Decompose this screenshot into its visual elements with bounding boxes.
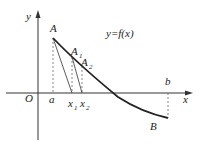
point-A2-label: A (80, 56, 88, 68)
point-A-label: A (49, 22, 57, 34)
function-label: y=f(x) (105, 27, 134, 40)
point-A2-subscript: 2 (89, 63, 93, 71)
point-A1-label: A (70, 45, 78, 57)
tick-b-label: b (165, 75, 171, 87)
diagram-svg: y x O y=f(x) A A 1 A 2 B a b x 1 x 2 (0, 0, 204, 146)
tick-x1-label: x (67, 97, 73, 109)
point-B-label: B (150, 120, 157, 132)
y-axis-label: y (25, 10, 31, 22)
tangent-at-A (53, 38, 72, 93)
tick-x2-label: x (79, 97, 85, 109)
tick-x2-subscript: 2 (86, 104, 90, 112)
x-axis-label: x (182, 93, 188, 105)
newton-method-diagram: y x O y=f(x) A A 1 A 2 B a b x 1 x 2 (0, 0, 204, 146)
origin-label: O (25, 92, 33, 104)
tick-x1-subscript: 1 (74, 104, 78, 112)
y-axis-arrow-icon (36, 10, 41, 18)
tick-a-label: a (49, 93, 55, 105)
